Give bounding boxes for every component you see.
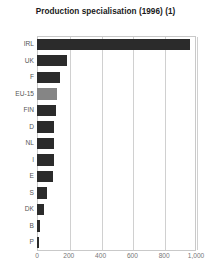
- bar-e[interactable]: [37, 171, 53, 182]
- y-axis-category-labels: IRLUKFEU-15FINDNLIESDKBP: [0, 36, 34, 251]
- chart-title: Production specialisation (1996) (1): [0, 7, 211, 16]
- y-tick-label-i: I: [0, 152, 34, 169]
- bar-row: [37, 234, 39, 251]
- y-tick-label-b: B: [0, 218, 34, 235]
- x-tick-label-200: 200: [63, 252, 74, 259]
- bar-f[interactable]: [37, 72, 60, 83]
- bar-i[interactable]: [37, 154, 54, 165]
- bars-area: [37, 36, 196, 251]
- y-tick-label-fin: FIN: [0, 102, 34, 119]
- y-tick-label-eu-15: EU-15: [0, 86, 34, 103]
- y-tick-label-d: D: [0, 119, 34, 136]
- y-tick-label-dk: DK: [0, 201, 34, 218]
- y-tick-label-uk: UK: [0, 53, 34, 70]
- bar-row: [37, 119, 54, 136]
- bar-row: [37, 36, 190, 53]
- bar-row: [37, 135, 54, 152]
- bar-fin[interactable]: [37, 105, 56, 116]
- y-tick-label-irl: IRL: [0, 36, 34, 53]
- bar-row: [37, 152, 54, 169]
- bar-p[interactable]: [37, 237, 39, 248]
- bar-row: [37, 102, 56, 119]
- y-tick-label-nl: NL: [0, 135, 34, 152]
- bar-nl[interactable]: [37, 138, 54, 149]
- gridline: [197, 37, 198, 250]
- bar-s[interactable]: [37, 187, 47, 198]
- x-axis-tick-labels: 02004006008001,000: [0, 252, 211, 266]
- bar-row: [37, 201, 44, 218]
- bar-row: [37, 185, 47, 202]
- y-tick-label-s: S: [0, 185, 34, 202]
- x-tick-label-1000: 1,000: [188, 252, 205, 259]
- x-tick-label-600: 600: [127, 252, 138, 259]
- bar-dk[interactable]: [37, 204, 44, 215]
- bar-eu-15[interactable]: [37, 88, 57, 99]
- chart-container: Production specialisation (1996) (1) IRL…: [0, 0, 211, 278]
- bar-row: [37, 53, 67, 70]
- bar-row: [37, 218, 40, 235]
- bar-b[interactable]: [37, 220, 40, 231]
- bar-irl[interactable]: [37, 39, 190, 50]
- y-tick-label-e: E: [0, 168, 34, 185]
- bar-row: [37, 69, 60, 86]
- bar-row: [37, 86, 57, 103]
- x-tick-label-400: 400: [95, 252, 106, 259]
- y-tick-label-p: P: [0, 234, 34, 251]
- bar-d[interactable]: [37, 121, 54, 132]
- bar-row: [37, 168, 53, 185]
- bar-uk[interactable]: [37, 55, 67, 66]
- y-tick-label-f: F: [0, 69, 34, 86]
- x-tick-label-0: 0: [35, 252, 39, 259]
- x-tick-label-800: 800: [159, 252, 170, 259]
